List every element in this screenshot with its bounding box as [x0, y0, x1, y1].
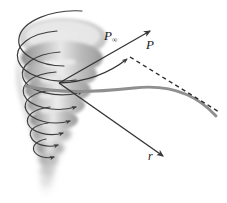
label-p-infinity: P∞	[104, 29, 117, 43]
vortex-flow-figure: P∞ P r	[0, 0, 227, 203]
label-r: r	[148, 150, 153, 162]
label-p: P	[146, 38, 154, 51]
label-p-infinity-subscript: ∞	[112, 35, 117, 44]
dashed-asymptote	[130, 57, 219, 112]
funnel-band-9	[39, 166, 53, 176]
funnel-band-10	[40, 177, 50, 185]
label-p-infinity-base: P	[104, 28, 112, 43]
